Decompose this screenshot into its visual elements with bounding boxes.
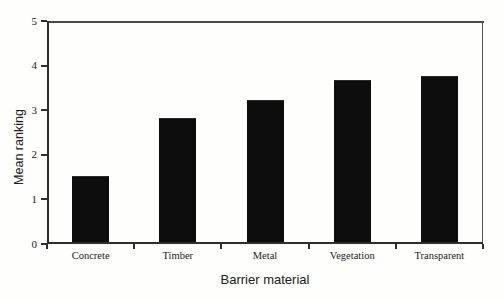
x-category-label-timber: Timber (133, 250, 223, 262)
y-axis-title: Mean ranking (12, 47, 26, 247)
bar-chart-figure: Mean ranking 012345 ConcreteTimberMetalV… (0, 0, 504, 298)
bar-timber (159, 118, 196, 244)
x-tick-4 (395, 244, 397, 249)
x-axis-line (47, 242, 483, 244)
x-category-label-vegetation: Vegetation (307, 250, 397, 262)
x-tick-5 (482, 244, 484, 249)
bar-metal (247, 100, 284, 244)
bar-transparent (421, 76, 458, 244)
x-category-label-transparent: Transparent (394, 250, 484, 262)
y-tick-label-5: 5 (15, 16, 37, 27)
x-axis-title: Barrier material (47, 272, 483, 287)
x-category-label-metal: Metal (220, 250, 310, 262)
plot-area: 012345 ConcreteTimberMetalVegetationTran… (47, 21, 483, 244)
bar-concrete (72, 176, 109, 244)
y-tick-label-1: 1 (15, 194, 37, 205)
x-category-label-concrete: Concrete (46, 250, 136, 262)
y-tick-label-4: 4 (15, 60, 37, 71)
y-tick-label-3: 3 (15, 105, 37, 116)
x-tick-0 (46, 244, 48, 249)
y-tick-label-2: 2 (15, 149, 37, 160)
plot-border-top (47, 21, 484, 23)
y-axis-line (47, 21, 49, 244)
bar-vegetation (334, 80, 371, 244)
x-tick-1 (133, 244, 135, 249)
x-tick-3 (308, 244, 310, 249)
x-tick-2 (220, 244, 222, 249)
y-tick-label-0: 0 (15, 239, 37, 250)
plot-border-right (482, 21, 483, 244)
